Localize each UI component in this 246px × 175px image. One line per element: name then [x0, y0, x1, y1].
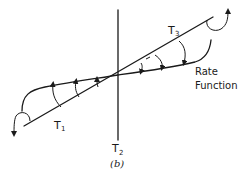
- rate-function-label-line1: Rate: [195, 66, 218, 77]
- svg-text:3: 3: [175, 30, 179, 38]
- figure-caption: (b): [110, 158, 124, 169]
- arrow-right-3: [179, 41, 185, 63]
- rate-function-label-line2: Function: [195, 80, 238, 91]
- svg-text:1: 1: [61, 125, 65, 133]
- svg-text:2: 2: [119, 149, 123, 157]
- rate-function-diagram: T 1 T 2 T 3 Rate Function (b): [0, 0, 246, 175]
- line-gap-mark: [146, 57, 150, 59]
- rate-function-curve: [22, 40, 211, 111]
- svg-text:T: T: [111, 142, 119, 155]
- arrow-right-1: [141, 63, 142, 72]
- svg-text:T: T: [167, 24, 175, 37]
- label-t2: T 2: [111, 142, 123, 157]
- label-t1: T 1: [53, 119, 65, 133]
- svg-text:T: T: [53, 119, 61, 132]
- arrow-right-2: [155, 55, 162, 68]
- arrow-left-1: [53, 84, 61, 107]
- curl-arrow-right-icon: [207, 11, 228, 30]
- label-t3: T 3: [167, 24, 179, 38]
